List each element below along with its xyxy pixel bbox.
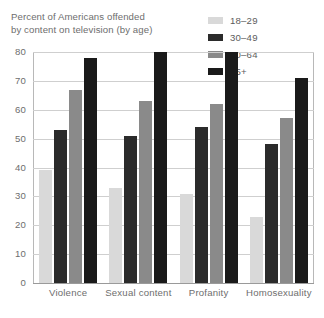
- legend-item-30-49: 30–49: [208, 29, 316, 45]
- legend-label-30-49: 30–49: [230, 32, 258, 43]
- bar-group-profanity: [180, 52, 238, 283]
- gridline-0: [33, 283, 314, 284]
- y-tick-label-30: 30: [0, 190, 26, 201]
- bar-sexual-content-5064: [139, 101, 152, 283]
- y-tick-label-60: 60: [0, 104, 26, 115]
- bar-violence-3049: [54, 130, 67, 283]
- chart-title-line-1: Percent of Americans offended: [11, 10, 211, 23]
- x-label-profanity: Profanity: [174, 287, 244, 298]
- bar-sexual-content-1829: [109, 188, 122, 283]
- bar-chart: Percent of Americans offended by content…: [0, 0, 324, 318]
- bar-profanity-1829: [180, 194, 193, 284]
- bar-violence-65+: [84, 58, 97, 283]
- plot-area: [33, 52, 314, 283]
- legend-swatch-30-49: [208, 34, 223, 41]
- y-tick-label-40: 40: [0, 162, 26, 173]
- chart-title: Percent of Americans offended by content…: [11, 10, 211, 36]
- y-tick-label-0: 0: [0, 277, 26, 288]
- y-tick-label-80: 80: [0, 46, 26, 57]
- bar-violence-5064: [69, 90, 82, 283]
- bar-homosexuality-1829: [250, 217, 263, 283]
- bar-sexual-content-65+: [154, 52, 167, 283]
- legend-swatch-18-29: [208, 17, 223, 24]
- bar-violence-1829: [39, 170, 52, 283]
- x-axis-category-labels: ViolenceSexual contentProfanityHomosexua…: [33, 287, 314, 307]
- bar-profanity-5064: [210, 104, 223, 283]
- legend-label-18-29: 18–29: [230, 15, 258, 26]
- bar-profanity-65+: [225, 52, 238, 283]
- bar-group-sexual-content: [109, 52, 167, 283]
- bar-sexual-content-3049: [124, 136, 137, 283]
- x-label-violence: Violence: [33, 287, 103, 298]
- chart-title-line-2: by content on television (by age): [11, 23, 211, 36]
- x-label-sexual-content: Sexual content: [103, 287, 173, 298]
- bar-group-homosexuality: [250, 52, 308, 283]
- bar-homosexuality-3049: [265, 144, 278, 283]
- y-tick-label-50: 50: [0, 133, 26, 144]
- x-label-homosexuality: Homosexuality: [244, 287, 314, 298]
- bars-layer: [33, 52, 314, 283]
- bar-profanity-3049: [195, 127, 208, 283]
- y-tick-label-10: 10: [0, 248, 26, 259]
- bar-homosexuality-5064: [280, 118, 293, 283]
- legend-item-18-29: 18–29: [208, 12, 316, 28]
- y-tick-label-70: 70: [0, 75, 26, 86]
- bar-group-violence: [39, 52, 97, 283]
- y-tick-label-20: 20: [0, 219, 26, 230]
- bar-homosexuality-65+: [295, 78, 308, 283]
